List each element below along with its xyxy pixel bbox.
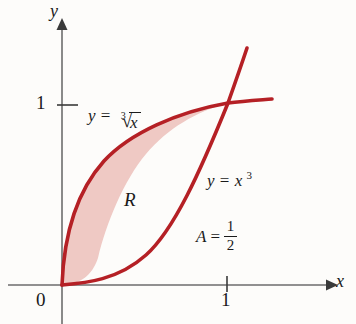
x-tick-label-1: 1 — [221, 290, 231, 309]
origin-tick-label: 0 — [36, 290, 46, 309]
y-tick-label-1: 1 — [36, 93, 46, 112]
area-fraction: 1 2 — [224, 219, 237, 254]
math-figure: y x 0 1 1 y = 3 √ x y = x 3 R A = 1 2 — [0, 0, 356, 324]
area-label: A = 1 2 — [196, 219, 237, 254]
curve-label-cube-root: y = 3 √ x — [88, 107, 145, 132]
cube-label-exponent: 3 — [246, 169, 252, 181]
radical-radicand: x — [129, 112, 141, 131]
region-label-R: R — [124, 190, 136, 209]
cbrt-label-lhs: y — [88, 106, 96, 125]
cube-label-lhs: y — [207, 171, 215, 190]
cbrt-label-equals: = — [100, 106, 112, 125]
area-label-equals: = — [209, 228, 221, 245]
area-label-lhs: A — [196, 228, 206, 245]
cube-label-equals: = — [219, 171, 231, 190]
fraction-denominator: 2 — [225, 237, 237, 254]
curve-label-x-cubed: y = x 3 — [207, 170, 252, 189]
cube-label-base: x — [235, 171, 243, 190]
y-axis-label: y — [50, 2, 58, 20]
x-axis-label: x — [336, 272, 344, 290]
radical-index: 3 — [121, 111, 126, 121]
y-axis-arrowhead — [57, 18, 68, 30]
fraction-numerator: 1 — [225, 219, 237, 236]
cube-root-radical: 3 √ x — [118, 113, 145, 132]
plot-canvas — [0, 0, 356, 324]
